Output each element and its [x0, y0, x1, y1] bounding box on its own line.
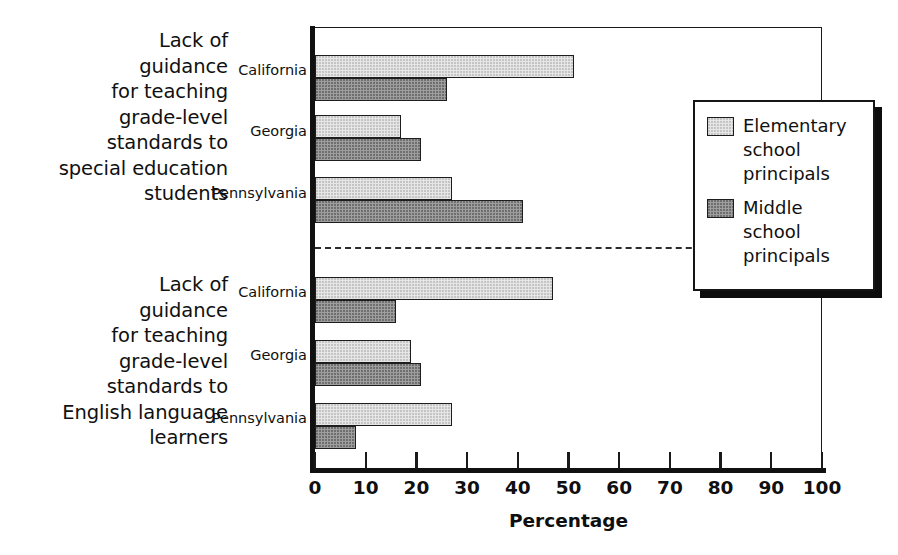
x-tick-label-40: 40 — [493, 477, 543, 498]
bar-elementary-special-pennsylvania — [315, 177, 452, 200]
state-label-california-lower: California — [185, 284, 307, 300]
x-tick-label-80: 80 — [696, 477, 746, 498]
bar-middle-special-georgia — [315, 138, 421, 161]
x-tick-40 — [517, 452, 519, 469]
x-tick-100 — [821, 452, 823, 469]
bar-middle-special-california — [315, 78, 447, 101]
state-label-california-upper: California — [185, 62, 307, 78]
bar-elementary-ell-georgia — [315, 340, 411, 363]
x-tick-label-50: 50 — [544, 477, 594, 498]
state-label-georgia-lower: Georgia — [185, 347, 307, 363]
x-tick-60 — [618, 452, 620, 469]
x-axis-title: Percentage — [315, 510, 822, 531]
x-tick-label-30: 30 — [442, 477, 492, 498]
state-label-pennsylvania-upper: Pennsylvania — [185, 185, 307, 201]
legend-swatch-elementary-icon — [707, 117, 734, 136]
x-tick-20 — [415, 452, 417, 469]
x-tick-label-90: 90 — [746, 477, 796, 498]
legend-label-middle: Middle school principals — [743, 196, 830, 268]
x-tick-label-70: 70 — [645, 477, 695, 498]
legend-entry-elementary: Elementary school principals — [707, 114, 867, 186]
bar-elementary-special-georgia — [315, 115, 401, 138]
x-tick-50 — [567, 452, 569, 469]
x-tick-label-10: 10 — [341, 477, 391, 498]
x-tick-80 — [719, 452, 721, 469]
x-tick-90 — [770, 452, 772, 469]
x-tick-label-20: 20 — [391, 477, 441, 498]
bar-elementary-ell-california — [315, 277, 553, 300]
state-label-pennsylvania-lower: Pennsylvania — [185, 410, 307, 426]
x-tick-0 — [314, 452, 316, 469]
legend-label-elementary: Elementary school principals — [743, 114, 847, 186]
state-label-georgia-upper: Georgia — [185, 123, 307, 139]
bar-middle-ell-pennsylvania — [315, 426, 356, 449]
x-tick-label-100: 100 — [797, 477, 847, 498]
x-tick-label-60: 60 — [594, 477, 644, 498]
category-group-label-special-education: Lack of guidance for teaching grade-leve… — [0, 28, 228, 207]
legend-entry-middle: Middle school principals — [707, 196, 867, 268]
bar-middle-special-pennsylvania — [315, 200, 523, 223]
x-tick-10 — [365, 452, 367, 469]
bar-middle-ell-georgia — [315, 363, 421, 386]
bar-elementary-ell-pennsylvania — [315, 403, 452, 426]
legend: Elementary school principals Middle scho… — [693, 100, 875, 291]
x-tick-label-0: 0 — [290, 477, 340, 498]
x-tick-30 — [466, 452, 468, 469]
bar-middle-ell-california — [315, 300, 396, 323]
x-tick-70 — [669, 452, 671, 469]
bar-elementary-special-california — [315, 55, 574, 78]
horizontal-bar-chart: Lack of guidance for teaching grade-leve… — [0, 0, 898, 555]
legend-swatch-middle-icon — [707, 199, 734, 218]
